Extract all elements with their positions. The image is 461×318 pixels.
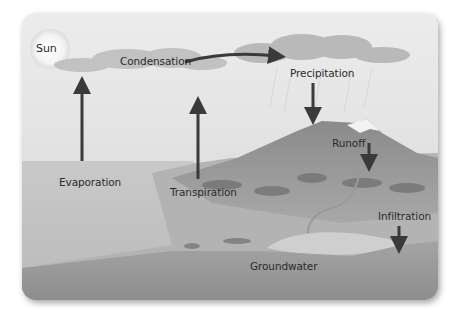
- infiltration-label: Infiltration: [378, 210, 431, 222]
- precipitation-label: Precipitation: [290, 67, 354, 79]
- sun-label: Sun: [36, 42, 57, 55]
- cloud-right-icon: [234, 34, 410, 63]
- runoff-label: Runoff: [332, 137, 365, 149]
- transpiration-label: Transpiration: [170, 186, 237, 198]
- condensation-label: Condensation: [120, 55, 191, 67]
- water-cycle-diagram: Sun Condensation Precipitation Runoff Ev…: [22, 13, 438, 300]
- evaporation-label: Evaporation: [59, 176, 121, 188]
- diagram-illustration: [22, 13, 438, 300]
- groundwater-label: Groundwater: [250, 260, 317, 272]
